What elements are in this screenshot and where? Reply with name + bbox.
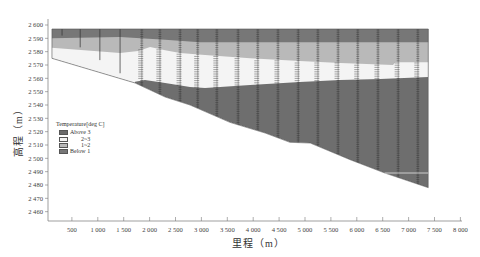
y-tick-label: 2 470: [28, 195, 44, 202]
x-tick-label: 500: [67, 226, 78, 233]
x-tick-label: 7 500: [427, 226, 443, 233]
legend-swatch: [59, 143, 68, 148]
x-tick-label: 1 500: [116, 226, 132, 233]
x-tick-label: 8 000: [453, 226, 469, 233]
legend: Temperature[deg C] Above 3 2~3 1~2 Below…: [56, 121, 120, 157]
y-tick-label: 2 480: [28, 181, 44, 188]
y-tick-label: 2 500: [28, 155, 44, 162]
x-tick-label: 1 000: [90, 226, 106, 233]
y-tick-label: 2 560: [28, 75, 44, 82]
y-tick-label: 2 460: [28, 208, 44, 215]
x-axis-title: 里程（m）: [232, 235, 285, 250]
y-tick-label: 2 570: [28, 61, 44, 68]
x-tick-label: 6 500: [375, 226, 391, 233]
y-tick-label: 2 530: [28, 115, 44, 122]
x-tick-label: 6 000: [349, 226, 365, 233]
x-tick-label: 2 000: [142, 226, 158, 233]
y-tick-label: 2 490: [28, 168, 44, 175]
legend-swatch: [59, 137, 68, 142]
y-tick-label: 2 550: [28, 88, 44, 95]
legend-item-below-1: Below 1: [59, 149, 119, 155]
y-tick-label: 2 600: [28, 21, 44, 28]
y-axis-title: 高程（m）: [10, 100, 25, 162]
legend-swatch: [59, 130, 68, 135]
legend-title: Temperature[deg C]: [56, 121, 104, 128]
y-tick-label: 2 590: [28, 35, 44, 42]
y-tick-label: 2 580: [28, 48, 44, 55]
x-tick-label: 3 000: [194, 226, 210, 233]
legend-label: Below 1: [70, 148, 90, 155]
y-tick-label: 2 540: [28, 101, 44, 108]
legend-swatch: [59, 149, 68, 154]
x-tick-label: 5 500: [323, 226, 339, 233]
x-tick-label: 2 500: [168, 226, 184, 233]
x-tick-label: 5 000: [298, 226, 314, 233]
x-tick-label: 7 000: [401, 226, 417, 233]
y-tick-label: 2 510: [28, 141, 44, 148]
x-tick-label: 3 500: [220, 226, 236, 233]
x-tick-label: 4 000: [246, 226, 262, 233]
y-tick-label: 2 520: [28, 128, 44, 135]
x-tick-label: 4 500: [272, 226, 288, 233]
